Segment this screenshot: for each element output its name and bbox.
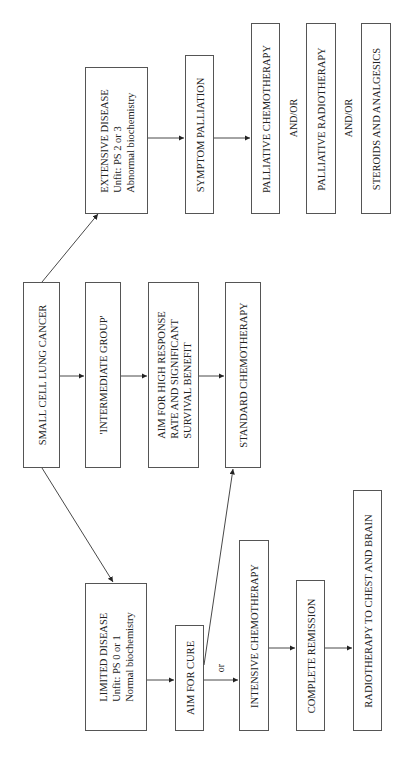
node-palliative-chemotherapy: PALLIATIVE CHEMOTHERAPY <box>251 23 280 214</box>
and-or-label: AND/OR <box>343 99 354 137</box>
node-intensive-chemotherapy: INTENSIVE CHEMOTHERAPY <box>239 540 269 731</box>
node-line: INTENSIVE CHEMOTHERAPY <box>248 564 261 708</box>
node-line: EXTENSIVE DISEASE <box>97 89 110 193</box>
node-line: RATE AND SIGNIFICANT <box>167 311 180 438</box>
node-aim-for-cure: AIM FOR CURE <box>175 625 204 731</box>
node-radiotherapy-chest-brain: RADIOTHERAPY TO CHEST AND BRAIN <box>353 490 382 731</box>
node-line: Abnormal biochemistry <box>123 89 136 193</box>
node-line: Normal biochemistry <box>123 612 136 702</box>
node-standard-chemotherapy: STANDARD CHEMOTHERAPY <box>225 282 261 468</box>
node-line: LIMITED DISEASE <box>97 612 110 702</box>
node-small-cell-lung-cancer: SMALL CELL LUNG CANCER <box>23 282 60 468</box>
node-extensive-disease: EXTENSIVE DISEASEUnfit: PS 2 or 3Abnorma… <box>85 67 148 214</box>
node-line: RADIOTHERAPY TO CHEST AND BRAIN <box>361 514 374 707</box>
node-line: Unfit: PS 2 or 3 <box>110 89 123 193</box>
node-line: Unfit: PS 0 or 1 <box>110 612 123 702</box>
and-or-label: AND/OR <box>288 99 299 137</box>
node-line: PALLIATIVE RADIOTHERAPY <box>315 47 328 190</box>
node-complete-remission: COMPLETE REMISSION <box>296 580 325 731</box>
node-line: SMALL CELL LUNG CANCER <box>35 305 48 446</box>
node-line: AIM FOR CURE <box>183 641 196 715</box>
node-symptom-palliation: SYMPTOM PALLIATION <box>185 55 214 214</box>
node-line: 'INTERMEDIATE GROUP' <box>97 316 110 435</box>
node-line: STEROIDS AND ANALGESICS <box>370 47 383 189</box>
node-line: COMPLETE REMISSION <box>304 598 317 713</box>
or-label: or <box>215 664 226 672</box>
node-line: AIM FOR HIGH RESPONSE <box>154 311 167 438</box>
node-palliative-radiotherapy: PALLIATIVE RADIOTHERAPY <box>306 23 336 214</box>
node-line: STANDARD CHEMOTHERAPY <box>237 302 250 447</box>
node-line: SYMPTOM PALLIATION <box>193 77 206 192</box>
node-line: PALLIATIVE CHEMOTHERAPY <box>259 44 272 192</box>
node-steroids-analgesics: STEROIDS AND ANALGESICS <box>361 23 391 214</box>
node-line: SURVIVAL BENEFIT <box>180 311 193 438</box>
node-aim-high-response: AIM FOR HIGH RESPONSERATE AND SIGNIFICAN… <box>148 282 199 468</box>
node-intermediate-group: 'INTERMEDIATE GROUP' <box>85 282 121 468</box>
node-limited-disease: LIMITED DISEASEUnfit: PS 0 or 1Normal bi… <box>85 583 147 731</box>
